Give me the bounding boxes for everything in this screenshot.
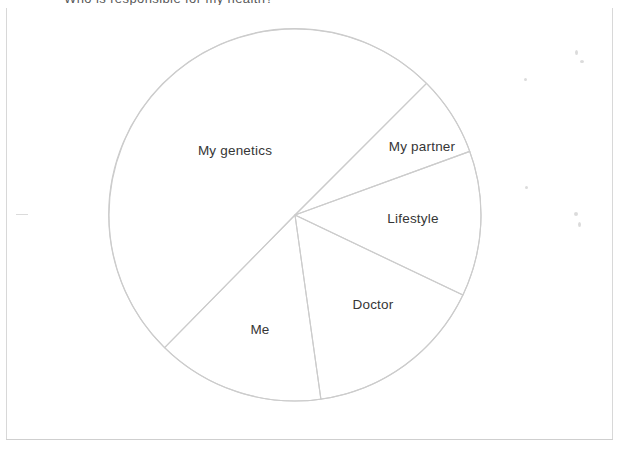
scan-speck: [578, 222, 581, 227]
pie-slice-label: My genetics: [198, 143, 272, 158]
scan-speck: [580, 60, 584, 63]
scan-speck: [574, 212, 578, 216]
scan-speck: [16, 214, 28, 215]
pie-slice-label: Me: [250, 322, 269, 337]
pie-chart: [0, 0, 622, 456]
pie-slice-label: Lifestyle: [387, 211, 438, 226]
pie-slice-label: Doctor: [353, 297, 394, 312]
scan-speck: [575, 50, 578, 55]
scan-speck: [525, 186, 528, 189]
scan-speck: [524, 78, 527, 81]
scanned-page: Who is responsible for my health? My gen…: [0, 0, 622, 456]
pie-slice-label: My partner: [389, 139, 456, 154]
